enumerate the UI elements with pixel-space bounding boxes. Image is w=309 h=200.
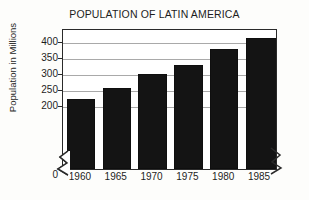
x-axis-tick-labels: 196019651970197519801985 [62, 171, 277, 189]
chart-figure: POPULATION OF LATIN AMERICA Population i… [0, 0, 309, 200]
x-tick-label-1975: 1975 [170, 171, 206, 182]
y-axis-title: Population in Millions [7, 3, 18, 133]
y-axis-tick-labels: 0200250300350400 [24, 29, 58, 170]
x-tick-label-1960: 1960 [62, 171, 98, 182]
bar-1975 [174, 65, 202, 169]
bar-1960 [67, 99, 95, 169]
bar-1980 [210, 49, 238, 169]
y-tick-label-300: 300 [41, 68, 58, 79]
x-tick-label-1980: 1980 [205, 171, 241, 182]
bar-1970 [138, 74, 166, 169]
plot-area [62, 29, 277, 170]
bar-1965 [103, 88, 131, 169]
x-tick-label-1985: 1985 [241, 171, 277, 182]
y-tick-label-0: 0 [52, 169, 58, 180]
gridline-300 [63, 75, 276, 76]
y-tick-label-250: 250 [41, 84, 58, 95]
y-tick-label-400: 400 [41, 36, 58, 47]
y-tick-label-350: 350 [41, 52, 58, 63]
gridline-400 [63, 43, 276, 44]
x-tick-label-1970: 1970 [134, 171, 170, 182]
gridline-350 [63, 59, 276, 60]
gridline-250 [63, 91, 276, 92]
y-tick-label-200: 200 [41, 100, 58, 111]
bar-1985 [246, 38, 277, 169]
chart-title: POPULATION OF LATIN AMERICA [0, 8, 309, 20]
x-tick-label-1965: 1965 [98, 171, 134, 182]
